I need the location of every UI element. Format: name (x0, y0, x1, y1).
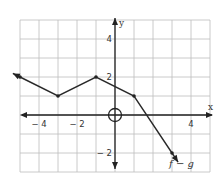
x-tick-label: 4 (188, 119, 193, 129)
data-point (94, 75, 98, 79)
series-label: f − g (168, 158, 194, 169)
axes (20, 18, 213, 169)
data-point (170, 151, 174, 155)
arrowhead-icon (20, 112, 27, 118)
graph: − 4− 2442− 2 x y f − g (0, 0, 222, 180)
x-tick-label: − 2 (69, 119, 84, 129)
arrowhead-icon (206, 112, 213, 118)
arrowhead-icon (112, 162, 118, 169)
x-axis-label: x (208, 102, 213, 112)
data-point (132, 94, 136, 98)
y-tick-label: − 2 (97, 148, 112, 158)
x-tick-label: − 4 (31, 119, 46, 129)
y-axis-label: y (118, 18, 125, 28)
arrowhead-icon (112, 18, 118, 25)
y-tick-label: 4 (107, 34, 112, 44)
data-point (56, 94, 60, 98)
data-point (18, 75, 22, 79)
y-tick-label: 2 (107, 72, 112, 82)
